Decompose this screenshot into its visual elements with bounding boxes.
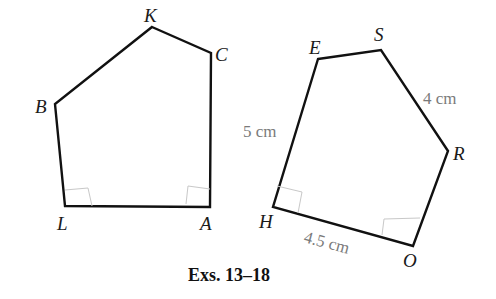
vertex-label-k: K xyxy=(143,5,158,26)
right-angle-mark-a xyxy=(186,186,210,204)
vertex-label-a: A xyxy=(198,213,212,234)
vertex-label-b: B xyxy=(35,96,47,117)
vertex-label-c: C xyxy=(215,44,228,65)
pentagon-esroh-outline xyxy=(273,50,448,246)
vertex-label-l: L xyxy=(56,213,68,234)
vertex-label-h: H xyxy=(258,211,274,232)
vertex-label-r: R xyxy=(452,143,465,164)
vertex-label-o: O xyxy=(403,250,417,271)
pentagon-right xyxy=(273,50,448,246)
measure-eh: 5 cm xyxy=(243,122,277,141)
measure-ho: 4.5 cm xyxy=(302,228,352,258)
vertex-label-e: E xyxy=(308,37,321,58)
pentagon-left xyxy=(55,27,211,207)
right-angle-mark-l xyxy=(65,188,92,206)
pentagon-kcalb-outline xyxy=(55,27,211,207)
figure-caption: Exs. 13–18 xyxy=(188,265,270,285)
vertex-label-s: S xyxy=(374,24,384,45)
measure-sr: 4 cm xyxy=(423,89,457,108)
figure-canvas: K C A L B E S R O H 5 cm 4 cm 4.5 cm Exs… xyxy=(0,0,496,299)
right-angle-mark-o xyxy=(382,218,420,235)
